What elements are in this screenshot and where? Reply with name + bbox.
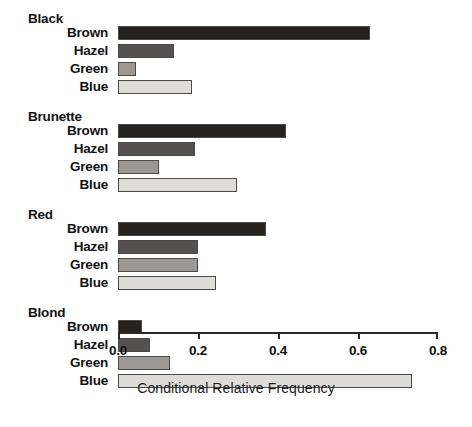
bar-row: Brown [0,26,472,40]
bar-row: Blue [0,80,472,94]
bar-row: Brown [0,222,472,236]
axis-tick [436,332,438,339]
axis-tick [118,332,120,339]
x-axis: 0.00.20.40.60.8 Conditional Relative Fre… [0,332,472,427]
bar-row: Blue [0,276,472,290]
bar-chart: BlackBrownHazelGreenBlueBrunetteBrownHaz… [0,0,472,427]
bar-brunette-hazel [118,142,195,156]
bar-row: Green [0,160,472,174]
group-title: Blond [28,305,65,320]
bar-label-blue: Blue [0,276,108,290]
group-title: Black [28,11,63,26]
axis-tick [278,332,280,339]
axis-tick [358,332,360,339]
bar-red-blue [118,276,216,290]
bar-label-blue: Blue [0,80,108,94]
bar-row: Blue [0,178,472,192]
axis-tick-label: 0.6 [328,343,388,358]
bar-label-hazel: Hazel [0,142,108,156]
bar-label-green: Green [0,160,108,174]
bar-black-blue [118,80,192,94]
axis-tick-label: 0.2 [168,343,228,358]
bar-label-brown: Brown [0,26,108,40]
bar-label-green: Green [0,258,108,272]
axis-tick-label: 0.4 [248,343,308,358]
bar-brunette-blue [118,178,237,192]
bar-row: Hazel [0,240,472,254]
bar-red-brown [118,222,266,236]
bar-row: Hazel [0,44,472,58]
bar-row: Green [0,62,472,76]
group-title: Red [28,207,53,222]
bar-row: Hazel [0,142,472,156]
bar-red-hazel [118,240,198,254]
bar-row: Green [0,258,472,272]
bar-label-brown: Brown [0,124,108,138]
bar-row: Brown [0,124,472,138]
bar-label-hazel: Hazel [0,44,108,58]
bar-label-hazel: Hazel [0,240,108,254]
bar-red-green [118,258,198,272]
bar-brunette-brown [118,124,286,138]
axis-tick-label: 0.8 [408,343,468,358]
x-axis-title: Conditional Relative Frequency [0,380,472,396]
axis-tick [198,332,200,339]
axis-tick-label: 0.0 [88,343,148,358]
bar-black-green [118,62,136,76]
bar-brunette-green [118,160,159,174]
bar-black-hazel [118,44,174,58]
bar-label-brown: Brown [0,222,108,236]
bar-label-green: Green [0,62,108,76]
bar-label-blue: Blue [0,178,108,192]
bar-black-brown [118,26,370,40]
group-title: Brunette [28,109,82,124]
